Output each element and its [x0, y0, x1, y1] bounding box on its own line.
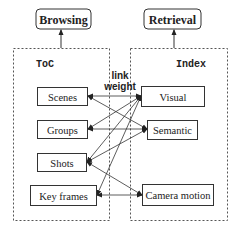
browsing-label: Browsing — [39, 13, 87, 27]
node-visual: Visual — [142, 87, 205, 107]
node-keyframes-label: Key frames — [39, 191, 88, 202]
node-shots-label: Shots — [50, 158, 73, 169]
browsing-box: Browsing — [36, 9, 91, 29]
diagram: Browsing Retrieval ToC Index link weight… — [0, 0, 236, 230]
node-keyframes: Key frames — [31, 186, 97, 206]
toc-title: ToC — [36, 59, 54, 70]
retrieval-box: Retrieval — [144, 9, 201, 29]
edges — [87, 96, 147, 195]
node-camera-motion: Camera motion — [143, 185, 214, 206]
node-groups: Groups — [38, 121, 88, 139]
diagram-canvas: Browsing Retrieval ToC Index link weight… — [0, 0, 236, 230]
node-camera-motion-label: Camera motion — [145, 190, 211, 201]
retrieval-label: Retrieval — [149, 13, 197, 27]
edge-visual-groups — [88, 96, 141, 129]
index-title: Index — [176, 59, 206, 70]
edge-visual-keyframes — [97, 96, 141, 195]
link-weight-label-line1: link — [111, 70, 129, 81]
node-shots: Shots — [38, 154, 87, 172]
edge-semantic-scenes — [88, 96, 147, 129]
node-groups-label: Groups — [47, 125, 78, 136]
link-weight-label-line2: weight — [103, 81, 136, 92]
edge-semantic-shots — [87, 129, 147, 162]
node-semantic-label: Semantic — [153, 125, 192, 136]
node-scenes: Scenes — [38, 88, 88, 106]
node-semantic: Semantic — [148, 121, 198, 140]
node-scenes-label: Scenes — [48, 92, 77, 103]
node-visual-label: Visual — [160, 92, 187, 103]
